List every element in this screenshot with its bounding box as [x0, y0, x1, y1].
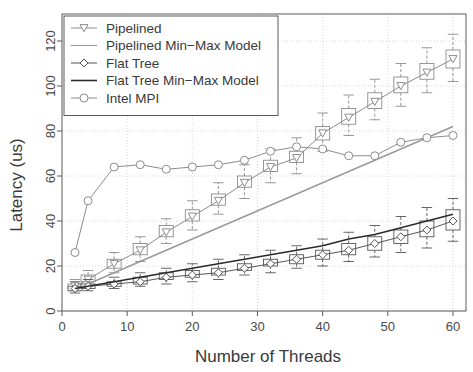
- y-tick-label: 40: [43, 214, 58, 228]
- y-tick-label: 100: [43, 75, 58, 97]
- legend-label: Pipelined: [106, 21, 162, 36]
- x-tick-label: 40: [315, 319, 329, 334]
- x-tick-label: 0: [58, 319, 65, 334]
- latency-vs-threads-chart: 0204060801001200102030405060 PipelinedPi…: [0, 0, 473, 372]
- x-tick-label: 20: [185, 319, 199, 334]
- legend-box: [64, 16, 278, 116]
- x-axis-title: Number of Threads: [195, 347, 341, 366]
- y-tick-label: 0: [43, 307, 58, 314]
- chart-legend: PipelinedPipelined Min−Max ModelFlat Tre…: [64, 16, 278, 116]
- chart-canvas: 0204060801001200102030405060 PipelinedPi…: [0, 0, 473, 372]
- y-tick-label: 80: [43, 124, 58, 138]
- legend-label: Flat Tree Min−Max Model: [106, 73, 259, 88]
- y-axis-title: Latency (us): [7, 138, 26, 232]
- x-tick-label: 10: [120, 319, 134, 334]
- y-tick-label: 20: [43, 259, 58, 273]
- legend-label: Pipelined Min−Max Model: [106, 38, 261, 53]
- y-tick-label: 60: [43, 169, 58, 183]
- legend-label: Flat Tree: [106, 56, 159, 71]
- x-tick-label: 50: [381, 319, 395, 334]
- legend-label: Intel MPI: [106, 91, 159, 106]
- y-tick-label: 120: [43, 30, 58, 52]
- x-tick-label: 30: [250, 319, 264, 334]
- x-tick-label: 60: [446, 319, 460, 334]
